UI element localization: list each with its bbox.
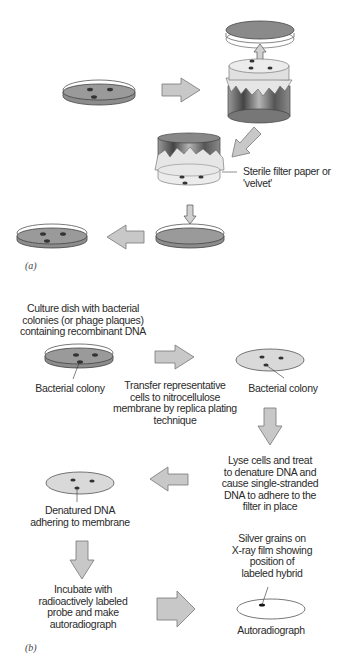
silver-grains-label: Silver grains on X-ray film showing posi… bbox=[222, 533, 322, 579]
colony-dot bbox=[87, 88, 93, 92]
text-line: Transfer representative bbox=[110, 380, 240, 392]
colony-dot bbox=[91, 95, 97, 99]
panel-a-label: (a) bbox=[25, 260, 37, 271]
autoradiograph-film bbox=[237, 587, 305, 619]
transfer-step-label: Transfer representative cells to nitroce… bbox=[110, 380, 240, 426]
autoradiograph-label: Autoradiograph bbox=[226, 625, 316, 637]
text-line: Lyse cells and treat bbox=[215, 455, 325, 467]
culture-dish bbox=[45, 344, 113, 379]
arrow-down-icon bbox=[184, 205, 196, 224]
incubate-step-label: Incubate with radioactively labeled prob… bbox=[28, 584, 138, 630]
denatured-dna-membrane bbox=[46, 472, 114, 502]
text-line: labeled hybrid bbox=[222, 568, 322, 580]
arrow-diagonal-icon bbox=[232, 127, 261, 157]
colony-dot bbox=[107, 88, 113, 92]
text-line: Silver grains on bbox=[222, 533, 322, 545]
nitrocellulose-membrane bbox=[236, 349, 304, 378]
panel-b-label: (b) bbox=[25, 642, 37, 653]
sterile-filter-label: Sterile filter paper or 'velvet' bbox=[243, 166, 333, 189]
denatured-dna-label: Denatured DNA adhering to membrane bbox=[20, 505, 140, 528]
arrow-down-icon bbox=[70, 541, 94, 579]
arrow-right-icon bbox=[155, 345, 194, 369]
bacterial-colony-left-label: Bacterial colony bbox=[25, 383, 115, 395]
text-line: filter in place bbox=[215, 501, 325, 513]
replica-petri-dish bbox=[17, 224, 87, 248]
velvet-block bbox=[226, 59, 292, 123]
text-line: containing recombinant DNA bbox=[18, 326, 148, 338]
arrow-right-icon bbox=[162, 78, 200, 102]
text-line: technique bbox=[110, 415, 240, 427]
fresh-petri-dish bbox=[156, 224, 224, 248]
text-line: probe and make bbox=[28, 607, 138, 619]
arrow-down-icon bbox=[258, 408, 282, 445]
arrow-right-icon bbox=[157, 591, 195, 627]
text-line: Culture dish with bacterial bbox=[18, 303, 148, 315]
arrow-left-icon bbox=[150, 467, 188, 491]
text-line: cause single-stranded bbox=[215, 478, 325, 490]
text-line: autoradiograph bbox=[28, 619, 138, 631]
text-line: adhering to membrane bbox=[20, 517, 140, 529]
master-petri-dish bbox=[63, 80, 135, 105]
inverted-velvet-block bbox=[155, 133, 224, 185]
text-line: Denatured DNA bbox=[20, 505, 140, 517]
text-line: Incubate with bbox=[28, 584, 138, 596]
bacterial-colony-right-label: Bacterial colony bbox=[238, 383, 328, 395]
arrow-left-icon bbox=[107, 225, 144, 249]
lyse-step-label: Lyse cells and treat to denature DNA and… bbox=[215, 455, 325, 513]
culture-dish-label: Culture dish with bacterial colonies (or… bbox=[18, 303, 148, 338]
text-line: membrane by replica plating bbox=[110, 403, 240, 415]
text-line: position of bbox=[222, 556, 322, 568]
